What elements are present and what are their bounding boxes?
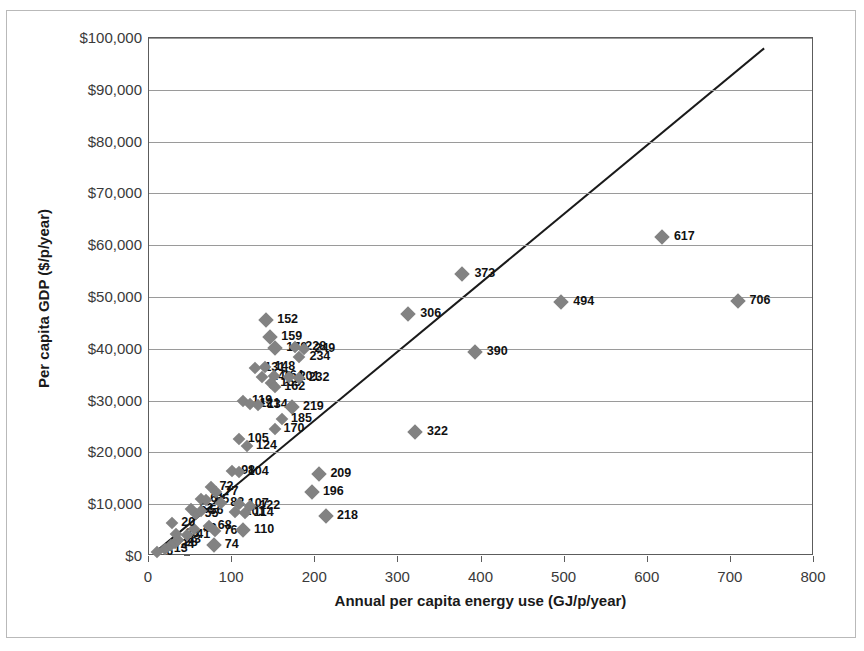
- x-tick-mark: [647, 556, 648, 562]
- y-tick-label: $90,000: [50, 80, 142, 97]
- data-point-label: 110: [254, 522, 274, 536]
- gridline: [149, 297, 812, 298]
- y-tick-label: $80,000: [50, 132, 142, 149]
- y-tick-label: $100,000: [50, 29, 142, 46]
- x-tick-label: 0: [144, 568, 152, 585]
- figure-root: National GDP as a function of energy use…: [0, 0, 864, 651]
- data-point-label: 196: [323, 484, 344, 498]
- data-point-label: 306: [420, 306, 441, 320]
- y-tick-label: $10,000: [50, 495, 142, 512]
- y-axis-ticks: $0$10,000$20,000$30,000$40,000$50,000$60…: [42, 37, 142, 555]
- x-tick-mark: [397, 556, 398, 562]
- x-tick-label: 800: [800, 568, 825, 585]
- data-point-label: 390: [487, 344, 508, 358]
- data-point-label: 104: [248, 464, 269, 478]
- data-point-label: 494: [573, 294, 594, 308]
- gridline: [149, 38, 812, 39]
- x-tick-label: 600: [634, 568, 659, 585]
- x-tick-label: 200: [302, 568, 327, 585]
- x-tick-mark: [148, 556, 149, 562]
- x-tick-label: 700: [717, 568, 742, 585]
- y-tick-label: $60,000: [50, 236, 142, 253]
- data-point-label: 152: [277, 312, 298, 326]
- x-axis-ticks: 0100200300400500600700800: [148, 556, 813, 596]
- x-tick-mark: [730, 556, 731, 562]
- data-point-label: 170: [284, 421, 305, 435]
- gridline: [149, 90, 812, 91]
- x-tick-mark: [564, 556, 565, 562]
- data-point-label: 74: [225, 537, 239, 551]
- gridline: [149, 452, 812, 453]
- y-tick-label: $20,000: [50, 443, 142, 460]
- plot-area: 6132428333841496874762055525661657277821…: [148, 37, 813, 555]
- data-point-label: 706: [750, 293, 771, 307]
- y-tick-label: $0: [50, 547, 142, 564]
- data-point-label: 232: [309, 370, 330, 384]
- data-point-label: 122: [259, 498, 280, 512]
- y-tick-label: $40,000: [50, 339, 142, 356]
- x-tick-label: 400: [468, 568, 493, 585]
- data-point-label: 617: [674, 229, 695, 243]
- gridline: [149, 245, 812, 246]
- data-point-label: 134: [267, 397, 288, 411]
- data-point-label: 124: [256, 438, 277, 452]
- x-tick-label: 100: [219, 568, 244, 585]
- gridline: [149, 142, 812, 143]
- gridline: [149, 193, 812, 194]
- x-tick-mark: [481, 556, 482, 562]
- y-tick-label: $70,000: [50, 184, 142, 201]
- x-tick-label: 300: [385, 568, 410, 585]
- y-tick-label: $30,000: [50, 391, 142, 408]
- data-point-label: 234: [309, 349, 330, 363]
- data-point-label: 218: [337, 508, 358, 522]
- data-point-label: 322: [427, 424, 448, 438]
- x-tick-mark: [813, 556, 814, 562]
- x-tick-mark: [231, 556, 232, 562]
- data-point-label: 209: [330, 466, 351, 480]
- x-tick-label: 500: [551, 568, 576, 585]
- y-tick-label: $50,000: [50, 288, 142, 305]
- x-tick-mark: [314, 556, 315, 562]
- data-point-label: 373: [474, 266, 495, 280]
